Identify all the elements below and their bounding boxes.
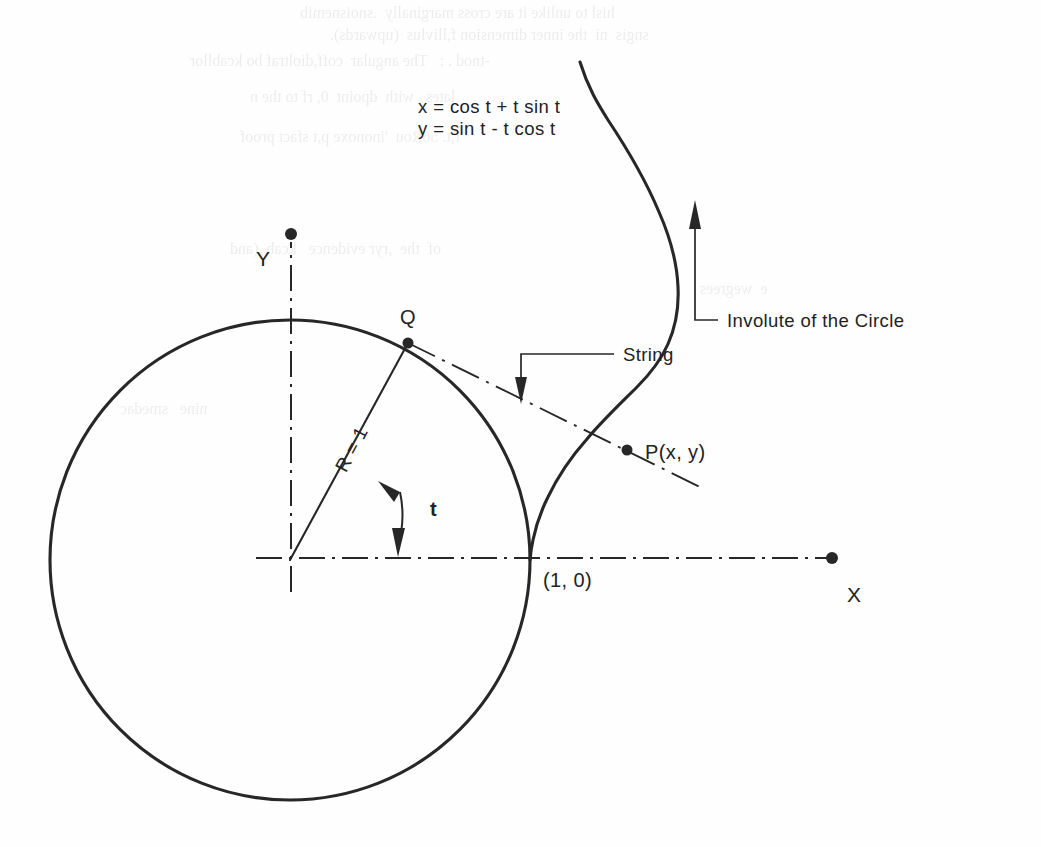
x-axis-label: X <box>847 582 861 609</box>
involute-leader-line <box>695 228 718 320</box>
y-axis-label: Y <box>256 246 270 273</box>
point-q-dot <box>403 338 414 349</box>
parametric-equation-x: x = cos t + t sin t <box>418 95 560 119</box>
string-label: String <box>623 343 674 367</box>
point-p-label: P(x, y) <box>645 440 706 466</box>
string-leader-line <box>521 354 614 390</box>
point-p-dot <box>622 445 633 456</box>
point-q-label: Q <box>400 305 416 331</box>
y-axis-end-dot <box>285 228 297 240</box>
involute-curve-label: Involute of the Circle <box>727 309 904 333</box>
angle-arc-arrowhead-lower <box>392 528 405 557</box>
figure-page: hisl to unlike it are cross marginally .… <box>0 0 1041 847</box>
string-leader-arrowhead <box>515 377 527 404</box>
parametric-equation-y: y = sin t - t cos t <box>418 117 556 141</box>
angle-t-label: t <box>430 497 437 523</box>
angle-arc-arrowhead-upper <box>378 481 400 502</box>
involute-leader-arrowhead <box>689 200 701 229</box>
point-one-zero-label: (1, 0) <box>543 568 592 594</box>
x-axis-end-dot <box>826 552 838 564</box>
